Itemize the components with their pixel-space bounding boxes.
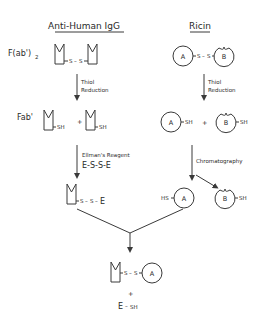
header-anti-human-igg: Anti-Human IgG <box>48 21 124 32</box>
svg-text:Chromatography: Chromatography <box>196 158 243 165</box>
svg-text:HS: HS <box>161 195 169 201</box>
fab-sh-1: SH <box>44 110 65 130</box>
header-ricin: Ricin <box>189 21 211 32</box>
svg-text:E: E <box>100 197 105 206</box>
svg-text:S: S <box>124 270 128 276</box>
converging-arrow <box>77 209 183 250</box>
plus-sign: + <box>202 119 207 127</box>
reaction-scheme: Anti-Human IgG Ricin F(ab') 2 S – S A S … <box>0 0 261 324</box>
svg-text:S: S <box>69 58 73 64</box>
svg-text:SH: SH <box>99 124 107 130</box>
svg-text:B: B <box>223 195 227 203</box>
svg-text:Reduction: Reduction <box>81 87 109 93</box>
svg-text:Thiol: Thiol <box>80 79 95 85</box>
svg-text:B: B <box>224 119 228 127</box>
ricin-b-sh: B SH <box>216 113 248 133</box>
byproduct-e-sh: E – SH <box>118 302 138 311</box>
svg-text:A: A <box>181 53 186 61</box>
fab2-label: F(ab') <box>8 49 31 58</box>
arrow-ellmans-reagent: Ellman's Reagent E-S-S-E <box>77 145 131 176</box>
ricin-b-sh-separated: B SH <box>215 189 247 209</box>
svg-text:–: – <box>129 270 132 276</box>
svg-text:S: S <box>90 198 94 204</box>
svg-text:–: – <box>95 198 98 204</box>
ricin-a-sh: A SH <box>161 112 193 132</box>
fab2-subscript: 2 <box>35 54 39 60</box>
svg-text:SH: SH <box>239 195 247 201</box>
ricin-molecule: A S – S B <box>173 46 234 67</box>
svg-text:Anti-Human IgG: Anti-Human IgG <box>48 21 120 31</box>
conjugate-fab-s-s-a: S – S A <box>111 262 162 283</box>
svg-text:Ellman's Reagent: Ellman's Reagent <box>82 152 131 159</box>
svg-text:S: S <box>197 53 201 59</box>
svg-text:–: – <box>74 58 77 64</box>
svg-text:–: – <box>85 198 88 204</box>
plus-sign: + <box>128 290 133 298</box>
svg-text:A: A <box>169 119 174 127</box>
svg-text:SH: SH <box>57 124 65 130</box>
svg-text:SH: SH <box>240 119 248 125</box>
svg-text:A: A <box>182 195 187 203</box>
svg-text:–: – <box>202 53 205 59</box>
svg-text:E-S-S-E: E-S-S-E <box>82 161 111 170</box>
plus-sign: + <box>77 118 82 126</box>
arrow-chromatography: Chromatography <box>192 145 243 187</box>
svg-text:S: S <box>134 270 138 276</box>
fab-label: Fab' <box>17 113 33 122</box>
svg-text:–: – <box>125 303 128 309</box>
svg-text:B: B <box>222 53 226 61</box>
fab-sh-2: SH <box>86 110 107 130</box>
arrow-thiol-reduction-right: Thiol Reduction <box>204 74 236 98</box>
svg-text:SH: SH <box>185 119 193 125</box>
svg-text:S: S <box>79 58 83 64</box>
svg-text:Thiol: Thiol <box>207 79 222 85</box>
svg-text:A: A <box>150 270 155 278</box>
svg-text:S: S <box>80 198 84 204</box>
fab-s-s-e: S – S – E <box>67 184 105 206</box>
svg-text:SH: SH <box>130 304 138 310</box>
fab2-molecule: S – S <box>55 44 97 64</box>
svg-text:E: E <box>118 302 123 311</box>
arrow-thiol-reduction-left: Thiol Reduction <box>77 74 109 98</box>
svg-text:Reduction: Reduction <box>208 87 236 93</box>
svg-text:S: S <box>207 53 211 59</box>
svg-text:Ricin: Ricin <box>189 21 211 31</box>
ricin-hs-a: HS A <box>161 188 194 208</box>
